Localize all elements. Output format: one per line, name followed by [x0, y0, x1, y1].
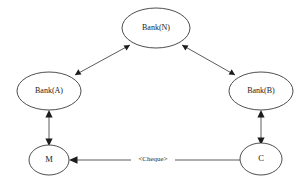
edge-customer-merchant-cheque: <Cheque> [69, 153, 240, 165]
node-bank-b[interactable]: Bank(B) [229, 72, 293, 110]
node-bank-b-label: Bank(B) [247, 86, 275, 95]
edge-customer-bank-b [257, 110, 264, 145]
node-customer-label: C [258, 153, 264, 163]
diagram-svg: <Cheque> Bank(N) Bank(A) Bank(B) M C [0, 0, 306, 185]
arrowhead-toward-bank-b-up [257, 110, 264, 118]
diagram-canvas: <Cheque> Bank(N) Bank(A) Bank(B) M C [0, 0, 306, 185]
node-merchant[interactable]: M [29, 145, 69, 175]
edge-merchant-bank-a [45, 110, 52, 146]
edge-bank-a-bank-n-line [75, 45, 130, 75]
node-bank-n-label: Bank(N) [142, 23, 170, 32]
edge-bank-a-bank-n [75, 45, 130, 75]
node-merchant-label: M [45, 154, 53, 164]
edge-label-cheque: <Cheque> [138, 155, 167, 163]
node-bank-n[interactable]: Bank(N) [122, 8, 190, 48]
node-bank-a[interactable]: Bank(A) [17, 72, 81, 110]
node-bank-a-label: Bank(A) [35, 86, 63, 95]
node-customer[interactable]: C [240, 143, 282, 175]
edge-bank-b-bank-n [182, 45, 235, 75]
arrowhead-toward-merchant-cheque [69, 156, 78, 164]
edge-bank-b-bank-n-line [182, 45, 235, 75]
arrowhead-toward-bank-a-up [45, 110, 52, 118]
